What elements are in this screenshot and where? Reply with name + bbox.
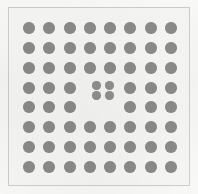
- lattice-atom-dot: [124, 161, 136, 173]
- lattice-atom-dot: [104, 42, 116, 54]
- lattice-atom-dot: [23, 101, 35, 113]
- lattice-atom-dot: [104, 161, 116, 173]
- lattice-atom-dot: [104, 141, 116, 153]
- lattice-atom-dot: [23, 82, 35, 94]
- lattice-atom-dot: [23, 62, 35, 74]
- lattice-atom-dot: [23, 121, 35, 133]
- lattice-atom-dot: [64, 161, 76, 173]
- lattice-atom-dot: [84, 62, 96, 74]
- lattice-atom-dot: [64, 101, 76, 113]
- defect-atom-dot: [92, 91, 101, 100]
- lattice-atom-dot: [104, 62, 116, 74]
- lattice-atom-dot: [145, 161, 157, 173]
- defect-atom-dot: [105, 81, 114, 90]
- defect-atom-dot: [92, 81, 101, 90]
- lattice-atom-dot: [84, 42, 96, 54]
- lattice-atom-dot: [43, 62, 55, 74]
- lattice-atom-dot: [64, 121, 76, 133]
- lattice-atom-dot: [124, 101, 136, 113]
- lattice-atom-dot: [64, 62, 76, 74]
- lattice-atom-dot: [43, 101, 55, 113]
- lattice-atom-dot: [43, 141, 55, 153]
- lattice-atom-dot: [64, 22, 76, 34]
- lattice-atom-dot: [165, 121, 177, 133]
- lattice-atom-dot: [145, 62, 157, 74]
- lattice-atom-dot: [124, 121, 136, 133]
- lattice-atom-dot: [165, 101, 177, 113]
- lattice-frame-border: [8, 7, 190, 186]
- lattice-atom-dot: [104, 22, 116, 34]
- lattice-atom-dot: [43, 161, 55, 173]
- lattice-atom-dot: [145, 101, 157, 113]
- lattice-atom-dot: [84, 141, 96, 153]
- lattice-plot-area: [9, 8, 191, 187]
- lattice-atom-dot: [145, 42, 157, 54]
- defect-atom-dot: [105, 91, 114, 100]
- lattice-atom-dot: [43, 42, 55, 54]
- lattice-atom-dot: [64, 141, 76, 153]
- lattice-atom-dot: [145, 121, 157, 133]
- lattice-atom-dot: [165, 82, 177, 94]
- lattice-atom-dot: [64, 42, 76, 54]
- lattice-atom-dot: [124, 141, 136, 153]
- lattice-atom-dot: [23, 42, 35, 54]
- lattice-atom-dot: [23, 141, 35, 153]
- lattice-atom-dot: [23, 161, 35, 173]
- lattice-atom-dot: [84, 161, 96, 173]
- lattice-atom-dot: [43, 121, 55, 133]
- lattice-atom-dot: [124, 22, 136, 34]
- lattice-atom-dot: [23, 22, 35, 34]
- lattice-figure: [0, 0, 198, 194]
- lattice-atom-dot: [145, 82, 157, 94]
- lattice-atom-dot: [124, 82, 136, 94]
- lattice-atom-dot: [165, 161, 177, 173]
- lattice-atom-dot: [145, 141, 157, 153]
- lattice-atom-dot: [145, 22, 157, 34]
- lattice-atom-dot: [104, 121, 116, 133]
- lattice-atom-dot: [165, 22, 177, 34]
- lattice-atom-dot: [124, 42, 136, 54]
- lattice-atom-dot: [64, 82, 76, 94]
- lattice-atom-dot: [124, 62, 136, 74]
- lattice-atom-dot: [84, 22, 96, 34]
- lattice-atom-dot: [165, 141, 177, 153]
- lattice-atom-dot: [165, 42, 177, 54]
- lattice-atom-dot: [165, 62, 177, 74]
- lattice-atom-dot: [43, 22, 55, 34]
- lattice-atom-dot: [84, 121, 96, 133]
- lattice-atom-dot: [43, 82, 55, 94]
